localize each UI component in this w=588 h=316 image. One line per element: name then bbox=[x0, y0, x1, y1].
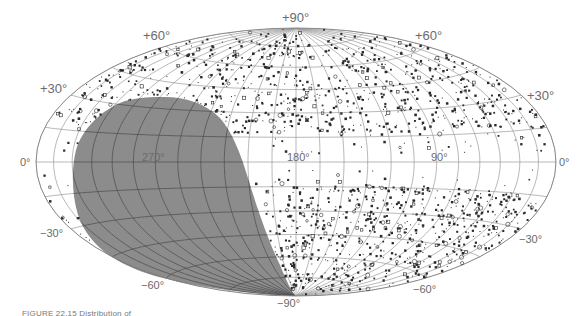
latitude-label-90-center: +90° bbox=[282, 12, 309, 23]
latitude-label-30-left: +30° bbox=[40, 83, 67, 94]
latitude-label-minus60-right: −60° bbox=[413, 284, 436, 295]
latitude-label-minus90-center: −90° bbox=[277, 298, 300, 309]
latitude-label-minus30-right: −30° bbox=[519, 234, 542, 245]
longitude-label-270: 270° bbox=[142, 152, 165, 163]
latitude-label-60-left: +60° bbox=[143, 30, 170, 41]
longitude-label-180: 180° bbox=[287, 152, 310, 163]
latitude-label-30-right: +30° bbox=[527, 90, 554, 101]
figure-caption: FIGURE 22.15 Distribution of bbox=[22, 309, 131, 316]
longitude-label-90: 90° bbox=[431, 152, 448, 163]
latitude-label-0-right: 0° bbox=[559, 157, 570, 168]
latitude-label-minus30-left: −30° bbox=[40, 228, 63, 239]
latitude-label-0-left: 0° bbox=[20, 157, 31, 168]
latitude-label-60-right: +60° bbox=[415, 30, 442, 41]
latitude-label-minus60-left: −60° bbox=[141, 280, 164, 291]
